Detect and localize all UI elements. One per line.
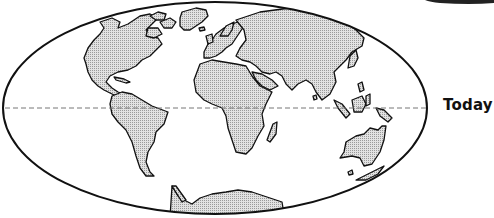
island-great-britain: [206, 34, 213, 44]
island-sulawesi: [366, 94, 370, 106]
island-iceland: [199, 27, 205, 31]
island-tasmania: [348, 170, 353, 175]
island-new-guinea: [376, 108, 392, 122]
world-map: [0, 0, 494, 218]
continent-south-america: [110, 92, 168, 176]
corner-smudge: [425, 0, 494, 4]
continent-north-america: [84, 14, 162, 98]
continent-australia: [340, 126, 386, 166]
island-madagascar: [267, 122, 277, 142]
island-sri-lanka: [313, 95, 317, 100]
time-label: Today: [443, 96, 493, 114]
island-sumatra: [334, 100, 350, 118]
island-new-zealand: [356, 166, 384, 180]
island-cuba: [114, 77, 130, 83]
island-borneo: [352, 96, 366, 112]
island-philippines: [358, 82, 364, 92]
island-arctic-canada-3: [146, 28, 162, 38]
landmasses: [84, 8, 392, 218]
